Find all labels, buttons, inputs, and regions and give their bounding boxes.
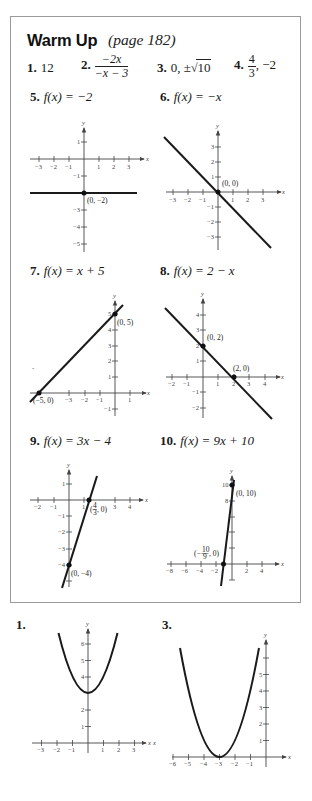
svg-text:−1: −1 xyxy=(207,203,214,210)
svg-text:(0, 2): (0, 2) xyxy=(207,333,224,342)
svg-text:5: 5 xyxy=(259,671,262,678)
svg-text:−3: −3 xyxy=(58,545,65,552)
svg-text:−1: −1 xyxy=(192,388,199,395)
svg-text:1: 1 xyxy=(81,723,84,730)
svg-text:2: 2 xyxy=(117,746,120,753)
graphs: x y −3−2−1 123 1−1 −3−4−5 (0, −2) x y −3… xyxy=(0,0,312,801)
svg-text:−3: −3 xyxy=(207,233,214,240)
svg-text:x: x xyxy=(145,155,149,162)
svg-text:3: 3 xyxy=(259,704,262,711)
svg-text:(0, 10): (0, 10) xyxy=(236,489,256,498)
svg-text:−2: −2 xyxy=(81,396,88,403)
svg-text:8: 8 xyxy=(225,497,228,504)
graph-exercise-1: x y −3−2−1 123 12 456 xyxy=(32,620,151,753)
svg-text:3: 3 xyxy=(108,342,111,349)
svg-text:-: - xyxy=(32,364,34,371)
svg-text:y: y xyxy=(85,620,89,627)
graph-6: x y −3−2−1 123 321 −1−2−3 (0, 0) xyxy=(164,122,285,250)
svg-text:−3: −3 xyxy=(73,206,80,213)
svg-text:−1: −1 xyxy=(183,380,190,387)
svg-text:−2: −2 xyxy=(34,503,41,510)
svg-text:3: 3 xyxy=(113,503,116,510)
svg-text:y: y xyxy=(229,467,233,474)
svg-text:−3: −3 xyxy=(65,396,72,403)
svg-text:3: 3 xyxy=(247,380,250,387)
svg-text:4: 4 xyxy=(81,673,85,680)
svg-text:(−5, 0): (−5, 0) xyxy=(33,396,54,405)
svg-text:x: x xyxy=(152,739,156,746)
svg-text:−1: −1 xyxy=(65,163,72,170)
svg-text:2: 2 xyxy=(245,567,248,574)
svg-text:y: y xyxy=(200,290,204,297)
svg-text:−1: −1 xyxy=(58,512,65,519)
svg-text:−4: −4 xyxy=(58,561,66,568)
svg-text:(0, 0): (0, 0) xyxy=(222,179,239,188)
svg-text:−1: −1 xyxy=(246,760,253,767)
svg-text:, 0): , 0) xyxy=(209,549,220,558)
svg-text:x: x xyxy=(144,496,148,503)
svg-text:2: 2 xyxy=(81,706,84,713)
svg-text:1: 1 xyxy=(97,163,100,170)
parabola-curve xyxy=(180,648,259,757)
svg-text:(−: (− xyxy=(194,549,201,558)
svg-text:−4: −4 xyxy=(200,760,208,767)
svg-text:x: x xyxy=(281,188,285,195)
svg-text:−1: −1 xyxy=(68,746,75,753)
graph-5: x y −3−2−1 123 1−1 −3−4−5 (0, −2) xyxy=(30,119,149,252)
svg-text:−1: −1 xyxy=(50,503,57,510)
svg-text:1: 1 xyxy=(216,380,219,387)
svg-text:6: 6 xyxy=(81,640,85,647)
svg-text:y: y xyxy=(112,292,116,299)
svg-text:3: 3 xyxy=(211,143,214,150)
svg-text:(0, 5): (0, 5) xyxy=(117,318,134,327)
svg-text:−4: −4 xyxy=(73,223,81,230)
svg-text:4: 4 xyxy=(128,503,132,510)
svg-text:, 0): , 0) xyxy=(97,505,108,514)
svg-text:1: 1 xyxy=(211,173,214,180)
svg-text:−2: −2 xyxy=(50,163,57,170)
svg-text:4: 4 xyxy=(259,687,263,694)
svg-text:−2: −2 xyxy=(211,567,218,574)
svg-text:2: 2 xyxy=(108,357,111,364)
svg-text:−3: −3 xyxy=(35,163,42,170)
svg-text:1: 1 xyxy=(101,746,104,753)
svg-text:3: 3 xyxy=(196,326,199,333)
svg-text:x: x xyxy=(287,753,291,760)
svg-text:1: 1 xyxy=(128,396,131,403)
svg-text:−2: −2 xyxy=(231,760,238,767)
svg-text:−5: −5 xyxy=(184,760,191,767)
svg-text:−6: −6 xyxy=(181,567,189,574)
svg-text:3: 3 xyxy=(132,746,135,753)
svg-text:(0, −2): (0, −2) xyxy=(87,196,108,205)
svg-text:3: 3 xyxy=(261,196,264,203)
svg-text:5: 5 xyxy=(108,310,111,317)
svg-text:2: 2 xyxy=(112,163,115,170)
svg-text:x: x xyxy=(147,739,151,746)
svg-text:−2: −2 xyxy=(53,746,60,753)
svg-text:1: 1 xyxy=(231,196,234,203)
svg-text:−1: −1 xyxy=(96,396,103,403)
svg-text:4: 4 xyxy=(196,311,200,318)
svg-text:3: 3 xyxy=(127,163,130,170)
svg-text:10: 10 xyxy=(222,481,229,488)
svg-text:9: 9 xyxy=(203,552,207,561)
svg-text:y: y xyxy=(66,461,70,468)
svg-text:−4: −4 xyxy=(196,567,204,574)
svg-text:x: x xyxy=(146,389,150,396)
svg-text:−5: −5 xyxy=(73,240,80,247)
svg-text:y: y xyxy=(215,122,219,129)
svg-text:4: 4 xyxy=(260,567,264,574)
svg-text:1: 1 xyxy=(196,357,199,364)
svg-text:−3: −3 xyxy=(169,196,176,203)
svg-text:(0, −4): (0, −4) xyxy=(71,569,92,578)
graph-7: x y (−5, 0) −3−2−11 543 21−1 - (0, 5) xyxy=(30,292,150,416)
svg-text:1: 1 xyxy=(77,138,80,145)
svg-text:5: 5 xyxy=(81,657,84,664)
svg-text:1: 1 xyxy=(108,373,111,380)
svg-text:−1: −1 xyxy=(73,172,80,179)
svg-text:2: 2 xyxy=(246,196,249,203)
svg-text:−2: −2 xyxy=(58,528,65,535)
svg-text:1: 1 xyxy=(62,480,65,487)
svg-text:−3: −3 xyxy=(37,746,44,753)
graph-9: x y −2−1 134 1−1−2 −3−4 ( 4 3 , 0) (0, −… xyxy=(30,461,148,588)
